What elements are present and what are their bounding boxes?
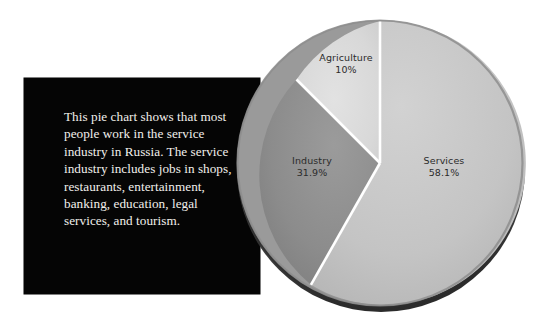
slice-label-agriculture-name: Agriculture: [306, 52, 386, 64]
pie-chart-figure: This pie chart shows that most people wo…: [0, 0, 552, 328]
slice-label-industry-name: Industry: [272, 155, 352, 167]
slice-label-industry-value: 31.9%: [272, 167, 352, 179]
caption-panel: This pie chart shows that most people wo…: [24, 78, 260, 294]
slice-label-services-name: Services: [404, 155, 484, 167]
caption-text: This pie chart shows that most people wo…: [64, 108, 244, 230]
slice-label-industry: Industry 31.9%: [272, 155, 352, 179]
slice-label-agriculture-value: 10%: [306, 64, 386, 76]
slice-label-services-value: 58.1%: [404, 167, 484, 179]
slice-label-agriculture: Agriculture 10%: [306, 52, 386, 76]
slice-label-services: Services 58.1%: [404, 155, 484, 179]
